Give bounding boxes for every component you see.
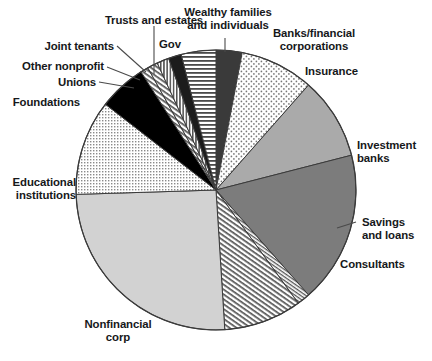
pie-chart: Trusts and estates Wealthy families and … — [0, 0, 432, 361]
slice-label-educational-institutions: Educational institutions — [0, 176, 76, 202]
slice-label-banks-financial: Banks/financial corporations — [258, 27, 370, 53]
slice-label-foundations: Foundations — [0, 96, 80, 109]
leader-line-joint-tenants — [117, 46, 146, 72]
slice-label-gov: Gov — [148, 38, 192, 51]
pie-slices — [76, 50, 356, 330]
pie-slice[interactable] — [76, 190, 225, 330]
slice-label-unions: Unions — [0, 76, 96, 89]
slice-label-savings-and-loans: Savings and loans — [362, 216, 432, 242]
slice-label-consultants: Consultants — [340, 258, 432, 271]
leader-line-other-nonprofit — [107, 67, 140, 80]
slice-label-nonfinancial-corp: Nonfinancial corp — [60, 318, 176, 344]
slice-label-joint-tenants: Joint tenants — [0, 40, 114, 53]
slice-label-insurance: Insurance — [305, 65, 395, 78]
slice-label-investment-banks: Investment banks — [357, 139, 431, 165]
slice-label-other-nonprofit: Other nonprofit — [0, 60, 104, 73]
